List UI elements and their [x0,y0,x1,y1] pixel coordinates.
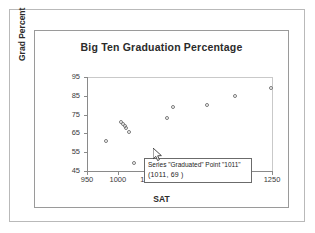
y-tick-label: 75 [64,111,80,119]
data-point[interactable] [171,105,175,109]
data-point[interactable] [165,116,169,120]
plot-area[interactable] [87,77,272,171]
x-tick-mark [272,172,273,175]
page-frame: Big Ten Graduation Percentage Grad Perce… [9,9,305,222]
plot-border-right [272,77,273,171]
tooltip-series-line: Series "Graduated" Point "1011" [148,160,248,170]
x-tick-label: 1250 [257,176,287,184]
x-axis-title: SAT [35,194,288,204]
x-tick-label: 950 [72,176,102,184]
y-axis-title: Grad Percent [17,8,27,61]
chart-object[interactable]: Big Ten Graduation Percentage Grad Perce… [34,30,289,208]
data-point[interactable] [104,139,108,143]
x-tick-label: 1000 [103,176,133,184]
y-tick-label: 45 [64,167,80,175]
y-tick-label: 65 [64,129,80,137]
y-tick-label: 95 [64,73,80,81]
data-point[interactable] [205,103,209,107]
x-tick-mark [118,172,119,175]
mouse-pointer-icon [153,148,163,166]
tooltip-value-line: (1011, 69 ) [148,170,248,180]
x-tick-mark [87,172,88,175]
data-point[interactable] [233,94,237,98]
y-tick-label: 55 [64,148,80,156]
data-point[interactable] [127,130,131,134]
data-point[interactable] [132,161,136,165]
chart-title: Big Ten Graduation Percentage [35,41,288,53]
y-tick-label: 85 [64,92,80,100]
